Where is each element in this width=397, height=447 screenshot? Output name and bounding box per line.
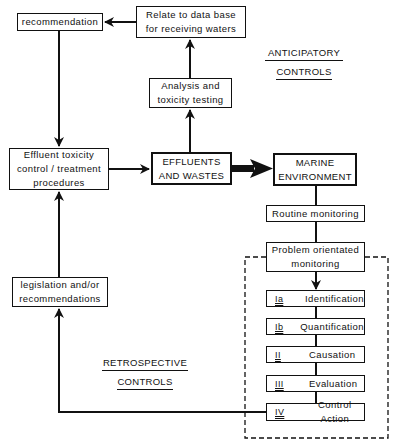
step-number: Ia: [275, 292, 305, 306]
step-label: Control Action: [306, 398, 364, 426]
step-number: Ib: [275, 320, 300, 334]
effluent-control-label-2: control / treatment: [17, 162, 101, 176]
step-control-action: IV Control Action: [266, 403, 365, 421]
problem-label-1: Problem orientated: [272, 243, 359, 257]
anticipatory-controls-heading: ANTICIPATORY CONTROLS: [262, 45, 346, 83]
effluents-wastes-box: EFFLUENTS AND WASTES: [151, 152, 232, 185]
step-causation: II Causation: [266, 346, 365, 363]
step-quantification: Ib Quantification: [266, 318, 365, 335]
marine-label-1: MARINE: [278, 156, 352, 170]
anticipatory-label-2: CONTROLS: [276, 64, 332, 80]
relate-database-box: Relate to data base for receiving waters: [136, 6, 246, 38]
effluent-control-label-1: Effluent toxicity: [17, 148, 101, 162]
thick-arrow-effluents-to-marine: [232, 159, 273, 178]
effluent-control-box: Effluent toxicity control / treatment pr…: [9, 148, 109, 190]
step-label: Evaluation: [309, 377, 357, 391]
analysis-label-1: Analysis and: [157, 79, 223, 93]
effluent-control-label-3: procedures: [17, 176, 101, 190]
legislation-label-1: legislation and/or: [19, 278, 101, 292]
step-label: Quantification: [300, 320, 364, 334]
step-number: II: [275, 348, 309, 362]
recommendation-label: recommendation: [22, 15, 98, 29]
routine-label: Routine monitoring: [272, 207, 359, 221]
problem-monitoring-box: Problem orientated monitoring: [266, 242, 365, 272]
legislation-box: legislation and/or recommendations: [12, 277, 108, 307]
recommendation-box: recommendation: [17, 13, 103, 31]
step-label: Identification: [305, 292, 364, 306]
retrospective-label-1: RETROSPECTIVE: [102, 355, 188, 371]
effluents-label-2: AND WASTES: [159, 169, 224, 183]
step-number: IV: [275, 405, 306, 419]
anticipatory-label-1: ANTICIPATORY: [265, 45, 343, 61]
retrospective-label-2: CONTROLS: [117, 374, 173, 390]
analysis-box: Analysis and toxicity testing: [149, 78, 232, 108]
relate-label-2: for receiving waters: [146, 22, 236, 36]
problem-label-2: monitoring: [272, 257, 359, 271]
step-label: Causation: [309, 348, 355, 362]
routine-monitoring-box: Routine monitoring: [266, 205, 365, 222]
relate-label-1: Relate to data base: [146, 8, 236, 22]
analysis-label-2: toxicity testing: [157, 93, 223, 107]
step-identification: Ia Identification: [266, 290, 365, 307]
retrospective-controls-heading: RETROSPECTIVE CONTROLS: [100, 355, 190, 393]
effluents-label-1: EFFLUENTS: [159, 155, 224, 169]
marine-label-2: ENVIRONMENT: [278, 170, 352, 184]
step-evaluation: III Evaluation: [266, 375, 365, 392]
step-number: III: [275, 377, 309, 391]
marine-environment-box: MARINE ENVIRONMENT: [273, 153, 357, 186]
legislation-label-2: recommendations: [19, 292, 101, 306]
